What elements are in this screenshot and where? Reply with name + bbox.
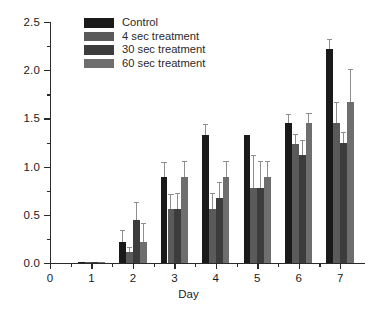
error-bar-cap (175, 193, 180, 194)
error-bar (350, 69, 351, 102)
x-tick-minor (112, 263, 113, 267)
error-bar (329, 39, 330, 49)
legend-item: 4 sec treatment (84, 30, 205, 44)
error-bar-cap (348, 69, 353, 70)
bar (119, 242, 126, 263)
y-tick-major (44, 215, 50, 216)
x-tick-major (216, 263, 217, 269)
bar (140, 242, 147, 263)
x-tick-major (257, 263, 258, 269)
error-bar (288, 114, 289, 124)
bar (133, 220, 140, 263)
x-tick-minor (195, 263, 196, 267)
error-bar (226, 161, 227, 177)
bar (202, 135, 209, 263)
x-tick-major (174, 263, 175, 269)
y-tick-label: 1.5 (23, 112, 40, 124)
error-bar-cap (161, 162, 166, 163)
bar (347, 102, 354, 263)
y-tick-minor (47, 143, 51, 144)
legend-label: 30 sec treatment (122, 43, 205, 57)
legend-item: 60 sec treatment (84, 57, 205, 71)
bar (168, 209, 175, 263)
error-bar-cap (327, 39, 332, 40)
x-tick-minor (71, 263, 72, 267)
bar (181, 177, 188, 263)
x-tick-major (50, 263, 51, 269)
y-tick-label: 0.0 (23, 257, 40, 269)
y-tick-minor (47, 239, 51, 240)
y-tick-label: 1.0 (23, 161, 40, 173)
y-tick-major (44, 263, 50, 264)
error-bar-cap (258, 161, 263, 162)
error-bar-cap (134, 202, 139, 203)
x-tick-major (299, 263, 300, 269)
bar (91, 262, 98, 263)
legend-label: Control (122, 16, 158, 30)
error-bar-cap (210, 193, 215, 194)
x-tick-label: 1 (88, 272, 94, 284)
error-bar-cap (286, 114, 291, 115)
error-bar-cap (127, 247, 132, 248)
error-bar-cap (223, 161, 228, 162)
error-bar-cap (265, 161, 270, 162)
error-bar-cap (168, 194, 173, 195)
bar (85, 262, 92, 263)
bar (98, 262, 105, 263)
x-tick-major (340, 263, 341, 269)
bar (174, 209, 181, 263)
legend-item: Control (84, 16, 205, 30)
x-tick-minor (154, 263, 155, 267)
bar (250, 188, 257, 263)
legend-swatch (84, 32, 114, 42)
x-axis-line: 01234567 (50, 263, 365, 264)
error-bar (253, 155, 254, 188)
legend-swatch (84, 59, 114, 69)
error-bar-cap (300, 140, 305, 141)
y-tick-major (44, 118, 50, 119)
legend-swatch (84, 45, 114, 55)
legend-label: 4 sec treatment (122, 30, 199, 44)
y-tick-minor (47, 191, 51, 192)
y-tick-label: 0.5 (23, 209, 40, 221)
chart-root: 01234567 0.00.51.01.52.02.5 DAI Day Cont… (0, 0, 377, 316)
error-bar-cap (341, 132, 346, 133)
error-bar (136, 202, 137, 219)
error-bar-cap (141, 223, 146, 224)
y-tick-label: 2.0 (23, 64, 40, 76)
error-bar (302, 140, 303, 155)
error-bar (343, 132, 344, 144)
error-bar (295, 134, 296, 145)
error-bar (170, 194, 171, 209)
x-tick-minor (237, 263, 238, 267)
bar (257, 188, 264, 263)
error-bar (184, 161, 185, 177)
bar (340, 143, 347, 263)
chart-legend: Control4 sec treatment30 sec treatment60… (84, 16, 205, 70)
y-tick-minor (47, 46, 51, 47)
x-tick-major (91, 263, 92, 269)
y-tick-minor (47, 94, 51, 95)
error-bar-cap (203, 124, 208, 125)
bar (161, 177, 168, 263)
y-tick-major (44, 70, 50, 71)
bar (216, 198, 223, 263)
bar (244, 135, 251, 263)
y-tick-major (44, 167, 50, 168)
bar (292, 144, 299, 263)
error-bar-cap (217, 182, 222, 183)
x-tick-minor (319, 263, 320, 267)
y-tick-major (44, 22, 50, 23)
error-bar (177, 193, 178, 209)
bar (78, 262, 85, 263)
bar (264, 177, 271, 263)
error-bar (164, 162, 165, 177)
error-bar (336, 102, 337, 123)
bar (285, 123, 292, 263)
error-bar-cap (251, 155, 256, 156)
bar (326, 49, 333, 263)
error-bar (219, 182, 220, 198)
legend-item: 30 sec treatment (84, 43, 205, 57)
error-bar (260, 161, 261, 188)
x-tick-label: 2 (130, 272, 136, 284)
